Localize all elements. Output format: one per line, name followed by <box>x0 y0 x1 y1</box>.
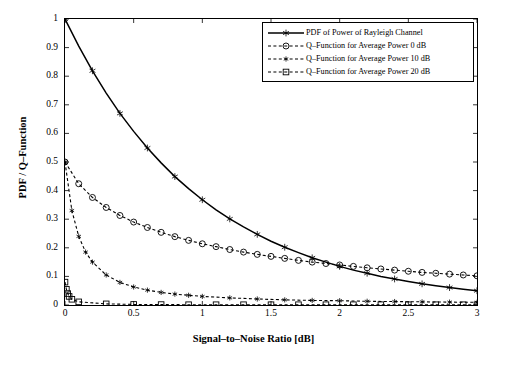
y-tick-label: 0.2 <box>24 242 58 252</box>
x-tick-label: 1.5 <box>251 308 291 318</box>
y-tick-label: 0.1 <box>24 270 58 280</box>
y-tick-label: 0.9 <box>24 42 58 52</box>
chart-figure: Signal–to–Noise Ratio [dB] PDF / Q–Funct… <box>0 0 507 369</box>
legend-symbol <box>266 53 306 65</box>
x-tick-label: 0 <box>45 308 85 318</box>
y-tick-label: 0.3 <box>24 213 58 223</box>
legend-label: Q–Function for Average Power 10 dB <box>306 53 430 65</box>
x-axis-label: Signal–to–Noise Ratio [dB] <box>0 333 507 344</box>
y-tick-label: 0.4 <box>24 185 58 195</box>
x-tick-label: 3 <box>457 308 497 318</box>
y-tick-label: 0 <box>24 299 58 309</box>
x-tick-label: 2 <box>320 308 360 318</box>
y-tick-label: 1 <box>24 13 58 23</box>
legend-label: Q–Function for Average Power 0 dB <box>306 40 426 52</box>
y-tick-label: 0.8 <box>24 70 58 80</box>
legend-item: PDF of Power of Rayleigh Channel <box>266 26 469 39</box>
x-tick-label: 0.5 <box>114 308 154 318</box>
legend-symbol <box>266 27 306 39</box>
legend: PDF of Power of Rayleigh ChannelQ–Functi… <box>262 22 474 82</box>
legend-label: PDF of Power of Rayleigh Channel <box>306 27 423 39</box>
y-tick-label: 0.7 <box>24 99 58 109</box>
legend-item: Q–Function for Average Power 10 dB <box>266 52 469 65</box>
y-tick-label: 0.6 <box>24 127 58 137</box>
x-tick-label: 1 <box>182 308 222 318</box>
legend-symbol <box>266 66 306 78</box>
legend-item: Q–Function for Average Power 0 dB <box>266 39 469 52</box>
x-tick-label: 2.5 <box>388 308 428 318</box>
legend-symbol <box>266 40 306 52</box>
y-tick-label: 0.5 <box>24 156 58 166</box>
legend-item: Q–Function for Average Power 20 dB <box>266 65 469 78</box>
legend-label: Q–Function for Average Power 20 dB <box>306 66 430 78</box>
